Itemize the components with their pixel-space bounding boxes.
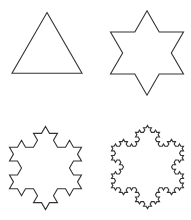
koch-iteration-0	[12, 13, 82, 74]
koch-iteration-2	[10, 126, 82, 209]
koch-iteration-1	[111, 11, 184, 95]
snowflake-group	[10, 11, 184, 210]
koch-iteration-3	[112, 125, 184, 208]
koch-snowflake-figure	[0, 0, 191, 220]
